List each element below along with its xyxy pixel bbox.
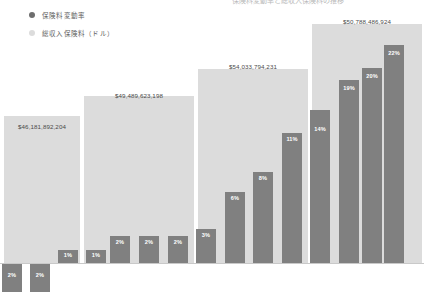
rate-bar-label: 8% xyxy=(253,175,273,181)
rate-bar-label: 20% xyxy=(362,73,382,79)
premium-band-label: $54,033,794,231 xyxy=(198,63,308,70)
rate-bar[interactable] xyxy=(2,264,22,292)
rate-bar-label: 19% xyxy=(339,85,359,91)
rate-bar-label: 2% xyxy=(168,239,188,245)
axis-baseline xyxy=(0,263,424,264)
rate-bar-label: 11% xyxy=(282,136,302,142)
rate-bar-label: 1% xyxy=(58,252,78,258)
premium-band-label: $49,489,623,198 xyxy=(84,92,194,99)
rate-bar-label: 2% xyxy=(30,272,50,278)
rate-bar[interactable] xyxy=(339,80,359,263)
rate-bar[interactable] xyxy=(282,133,302,263)
rate-bar[interactable] xyxy=(384,45,404,263)
rate-bar-label: 22% xyxy=(384,50,404,56)
premium-change-rate-chart: 保険料変動率と総収入保険料の推移 保険料変動率 総収入保険料（ドル） $46,1… xyxy=(0,0,424,298)
rate-bar[interactable] xyxy=(253,172,273,263)
rate-bar-label: 2% xyxy=(2,272,22,278)
rate-bar-label: 3% xyxy=(196,232,216,238)
rate-bar-label: 2% xyxy=(139,239,159,245)
plot-area: $46,181,892,204$49,489,623,198$54,033,79… xyxy=(0,0,424,298)
rate-bar[interactable] xyxy=(30,264,50,292)
rate-bar-label: 14% xyxy=(310,126,330,132)
rate-bar-label: 6% xyxy=(225,195,245,201)
rate-bar-label: 1% xyxy=(86,252,106,258)
rate-bar-label: 2% xyxy=(110,239,130,245)
premium-band xyxy=(4,116,80,263)
premium-band-label: $46,181,892,204 xyxy=(4,123,80,130)
rate-bar[interactable] xyxy=(310,110,330,263)
rate-bar[interactable] xyxy=(225,192,245,263)
premium-band-label: $50,788,486,924 xyxy=(312,18,422,25)
rate-bar[interactable] xyxy=(362,68,382,263)
